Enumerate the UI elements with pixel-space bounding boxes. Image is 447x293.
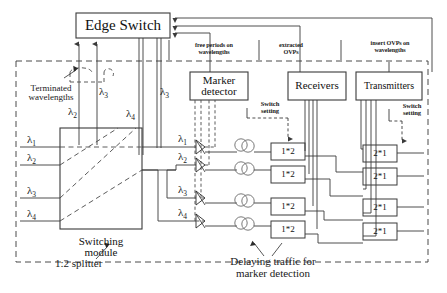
insert-ovps-annotation: insert OVPs on wavelengths (344, 40, 436, 53)
edge-switch-label: Edge Switch (76, 13, 170, 38)
wavelength-upper-label-lambda4: λ4 (126, 108, 135, 122)
switching-module-box (60, 128, 142, 229)
wavelength-input-label-3: λ3 (27, 185, 36, 199)
wavelength-mid-label-2: λ2 (178, 151, 187, 165)
wavelength-edge-feed-label: λ3 (160, 86, 169, 100)
splitter-callout-label: 1:2 splitter (55, 258, 145, 270)
splitter-group (196, 140, 205, 228)
switch-2x1-label-1: 2*1 (363, 145, 397, 162)
switch-setting-left: Switch setting (250, 101, 290, 115)
delay-coil-group (235, 139, 254, 230)
insert-line2: wavelengths (344, 47, 436, 54)
marker-detector-line2: detector (201, 86, 236, 97)
extracted-line2: OVPs (262, 49, 320, 56)
wavelength-upper-label-lambda2: λ2 (68, 106, 77, 120)
free-periods-annotation: free periods on wavelengths (172, 42, 256, 55)
wavelength-mid-label-3: λ3 (178, 184, 187, 198)
wavelength-mid-label-4: λ4 (178, 207, 187, 221)
transmitters-label: Transmitters (356, 72, 422, 100)
delaying-line1: Delaying traffic for (205, 256, 341, 268)
terminated-loop-2 (104, 69, 113, 76)
wavelength-input-label-4: λ4 (27, 208, 36, 222)
switch-1x2-label-3: 1*2 (271, 198, 305, 215)
delaying-traffic-callout-label: Delaying traffic for marker detection (205, 256, 341, 279)
receivers-label: Receivers (288, 72, 346, 100)
switch-setting-right-line2: setting (392, 110, 432, 117)
switch-2x1-label-3: 2*1 (363, 199, 397, 216)
extracted-ovps-annotation: extracted OVPs (262, 42, 320, 55)
wavelength-upper-label-lambda3: λ3 (99, 86, 108, 100)
switch-setting-right: Switch setting (392, 103, 432, 117)
terminated-line2: wavelengths (18, 93, 84, 102)
switch-2x1-label-2: 2*1 (363, 168, 397, 185)
switch-setting-left-line2: setting (250, 108, 290, 115)
switch-2x1-label-4: 2*1 (363, 223, 397, 240)
free-periods-line2: wavelengths (172, 49, 256, 56)
wavelength-input-label-2: λ2 (27, 152, 36, 166)
switch-1x2-label-1: 1*2 (271, 143, 305, 160)
figure-canvas: Edge Switch Switching module Marker dete… (0, 0, 447, 293)
marker-detector-label: Marker detector (190, 72, 248, 100)
terminated-wavelengths-annotation: Terminated wavelengths (18, 84, 84, 103)
switch-1x2-label-2: 1*2 (271, 166, 305, 183)
wavelength-mid-label-1: λ1 (178, 133, 187, 147)
wavelength-input-label-1: λ1 (27, 134, 36, 148)
switch-1x2-label-4: 1*2 (271, 221, 305, 238)
delaying-line2: marker detection (205, 268, 341, 280)
